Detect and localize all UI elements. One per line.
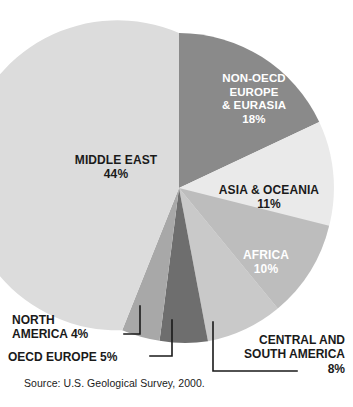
callout-label-oecd-europe: OECD EUROPE 5% [8,350,148,364]
callout-line-1: CENTRAL AND [259,333,345,347]
callout-line-2: AMERICA 4% [12,327,88,341]
slice-label-non-oecd-europe-eurasia: NON-OECD EUROPE & EURASIA 18% [196,72,312,126]
pie-slices [0,20,334,343]
slice-label-africa: AFRICA 10% [218,248,314,276]
slice-value-middle-east: 44% [48,167,184,181]
slice-value-asia-oceania: 11% [196,197,342,211]
slice-value-non-oecd-europe-eurasia: 18% [196,113,312,127]
callout-value-central-south-america: 8% [209,362,345,376]
slice-label-line-2: EUROPE [229,86,278,98]
slice-label-line-3: & EURASIA [222,99,286,111]
slice-label-line-1: MIDDLE EAST [75,153,157,167]
callout-line-1: NORTH [12,313,55,327]
callout-line-1: OECD EUROPE 5% [8,350,117,364]
callout-label-north-america: NORTH AMERICA 4% [12,313,120,342]
pie-chart-figure: NON-OECD EUROPE & EURASIA 18% ASIA & OCE… [0,0,353,407]
slice-label-asia-oceania: ASIA & OCEANIA 11% [196,183,342,211]
slice-label-line-1: NON-OECD [222,72,285,84]
slice-label-line-1: AFRICA [243,248,289,262]
slice-label-line-1: ASIA & OCEANIA [219,183,319,197]
callout-line-2: SOUTH AMERICA [244,347,345,361]
callout-label-central-south-america: CENTRAL AND SOUTH AMERICA 8% [209,333,345,376]
slice-label-middle-east: MIDDLE EAST 44% [48,153,184,181]
source-note: Source: U.S. Geological Survey, 2000. [24,377,205,389]
slice-value-africa: 10% [218,262,314,276]
